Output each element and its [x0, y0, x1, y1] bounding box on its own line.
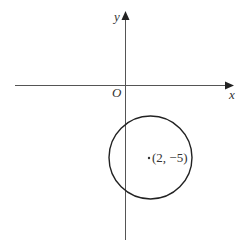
- center-point-label: (2, −5): [152, 150, 188, 165]
- y-axis: [122, 11, 130, 240]
- origin-label: O: [112, 85, 122, 100]
- x-axis: [15, 82, 234, 90]
- diagram-canvas: x y O (2, −5): [0, 0, 243, 252]
- coordinate-diagram: x y O (2, −5): [0, 0, 243, 252]
- y-axis-label: y: [112, 9, 120, 24]
- y-axis-arrow-icon: [122, 11, 130, 20]
- x-axis-label: x: [228, 87, 235, 102]
- center-point: [148, 157, 150, 159]
